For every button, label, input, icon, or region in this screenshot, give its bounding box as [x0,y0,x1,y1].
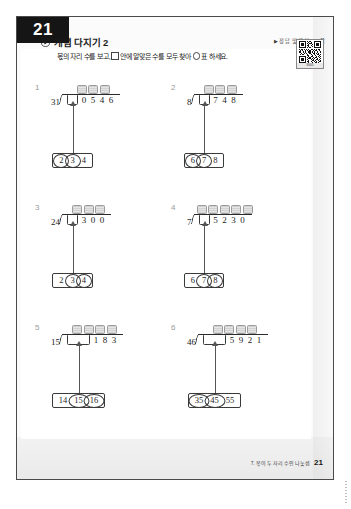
place-value-block [95,205,105,214]
long-division: 310546 [51,85,114,107]
division-bracket: 748 [192,85,237,105]
connector-arrow [73,105,74,153]
choice-option[interactable]: 16 [88,396,101,405]
dividend: 5230 [192,214,246,225]
choice-option[interactable]: 8 [211,276,219,285]
problem-1: 1310546234 [35,81,171,201]
place-value-block [215,85,225,94]
connector-arrow [204,105,205,153]
choice-option[interactable]: 45 [208,396,221,405]
dividend-digit: 4 [222,95,228,105]
circle-mark-icon [193,52,201,60]
dividend-digit: 8 [231,95,237,105]
long-division: 75230 [187,205,246,227]
problem-6: 6465921354555 [171,321,307,441]
dividend-digit: 5 [90,95,96,105]
place-value-blocks [72,325,117,334]
footer-page-number: 21 [314,458,323,467]
dividend-digit: 3 [81,215,87,225]
qr-block[interactable]: 3605 [296,39,324,69]
division-bar [62,334,123,335]
problem-2: 28748678 [171,81,307,201]
place-value-blocks [197,205,253,214]
problem-number: 6 [171,323,175,332]
choice-option[interactable]: 4 [80,156,88,165]
dividend-digit: 6 [108,95,114,105]
dividend-digit: 0 [90,215,96,225]
page-edge-dots [345,481,347,503]
dividend-digit: 1 [256,335,262,345]
long-division: 465921 [187,325,262,347]
long-division: 24300 [51,205,105,227]
problem-number: 3 [35,203,39,212]
long-division: 8748 [187,85,237,107]
place-value-block [88,85,98,94]
division-bar [194,94,243,95]
place-value-block [72,205,82,214]
instruction-part-2: 안에 알맞은 수를 모두 찾아 [120,53,191,60]
footer: 7. 몫이 두 자리 수인 나눗셈 21 [251,458,323,467]
instruction-part-3: 표 하세요. [201,53,228,60]
place-value-block [220,205,230,214]
worksheet-page: 21 ▶정답 및 해설 4~5쪽 개념 다지기 2 몫의 자리 수를 보고,안에… [16,16,334,480]
division-bracket: 300 [60,205,105,225]
dividend-digit: 0 [99,215,105,225]
division-bracket: 5921 [196,325,262,345]
choice-option[interactable]: 4 [80,276,88,285]
place-value-block [84,325,94,334]
place-value-block [84,205,94,214]
place-value-blocks [213,325,258,334]
dividend-digit: 4 [99,95,105,105]
division-bracket: 183 [60,325,117,345]
place-value-block [72,325,82,334]
dividend-digit: 3 [231,215,237,225]
problem-number: 2 [171,83,175,92]
problem-5: 515183141516 [35,321,171,441]
section-title-row: 개념 다지기 2 [41,35,108,49]
instruction-part-1: 몫의 자리 수를 보고, [57,53,110,60]
division-bar [198,334,268,335]
dividend-digit: 5 [213,215,219,225]
choice-box: 234 [52,153,93,168]
dividend: 183 [60,334,117,345]
problem-grid: 1310546234287486783243002344752306785151… [35,81,307,441]
problem-4: 475230678 [171,201,307,321]
choice-option[interactable]: 55 [224,396,237,405]
page-seam [313,17,333,479]
dividend-digit: 5 [229,335,235,345]
qr-label: 3605 [297,63,323,68]
choice-box: 354555 [188,393,242,408]
division-bar [62,214,111,215]
answer-reference-marker: ▶ [274,38,278,44]
division-bracket: 5230 [192,205,246,225]
problem-number: 1 [35,83,39,92]
problem-number: 5 [35,323,39,332]
dividend: 748 [192,94,237,105]
dividend: 300 [60,214,105,225]
dividend-digit: 0 [240,215,246,225]
qr-code-icon [299,41,321,63]
dividend-digit: 0 [81,95,87,105]
choice-box: 678 [184,273,225,288]
choice-box: 234 [52,273,93,288]
connector-arrow [215,345,216,393]
problem-3: 324300234 [35,201,171,321]
division-bar [194,214,252,215]
play-circle-icon [41,38,50,47]
place-value-block [95,325,105,334]
place-value-block [224,325,234,334]
place-value-blocks [77,85,110,94]
choice-option[interactable]: 3 [68,156,76,165]
connector-arrow [204,225,205,273]
place-value-block [197,205,207,214]
place-value-block [204,85,214,94]
place-value-block [208,205,218,214]
footer-chapter: 7. 몫이 두 자리 수인 나눗셈 [251,459,310,466]
place-value-block [100,85,110,94]
dividend-digit: 7 [213,95,219,105]
dividend-digit: 2 [247,335,253,345]
choice-box: 678 [184,153,225,168]
choice-option[interactable]: 7 [200,156,208,165]
instruction-text: 몫의 자리 수를 보고,안에 알맞은 수를 모두 찾아표 하세요. [57,51,228,61]
choice-option[interactable]: 8 [211,156,219,165]
